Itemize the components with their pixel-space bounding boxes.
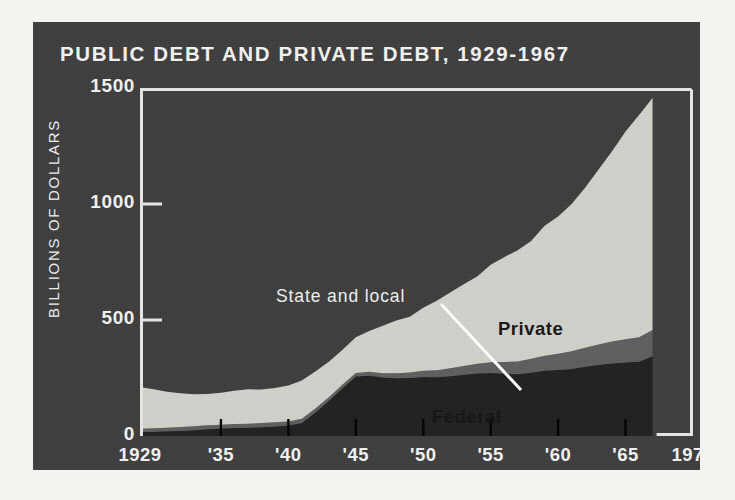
- annotation-state-and-local: State and local: [276, 286, 405, 307]
- x-tick-label: '55: [477, 444, 503, 466]
- x-tick-label: '65: [612, 444, 638, 466]
- x-tick-label: '50: [410, 444, 436, 466]
- x-tick-label: '60: [545, 444, 571, 466]
- chart-panel: PUBLIC DEBT AND PRIVATE DEBT, 1929-1967 …: [33, 22, 700, 470]
- annotation-private: Private: [498, 318, 563, 340]
- stacked-area-plot: [140, 88, 693, 436]
- annotation-federal: Federal: [432, 406, 501, 428]
- x-tick-label: '40: [275, 444, 301, 466]
- chart-page: PUBLIC DEBT AND PRIVATE DEBT, 1929-1967 …: [0, 0, 735, 500]
- x-tick-label: '45: [343, 444, 369, 466]
- x-tick-label: 1970: [671, 444, 700, 466]
- x-tick-label: 1929: [118, 444, 161, 466]
- x-tick-label: '35: [208, 444, 234, 466]
